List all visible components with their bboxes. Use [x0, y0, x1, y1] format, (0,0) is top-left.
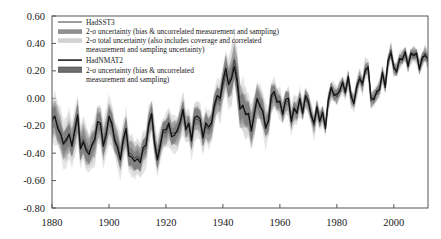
legend-item: measurement and sampling uncertainty): [86, 45, 205, 54]
y-tick-label: 0.40: [27, 38, 45, 49]
x-axis-tickmarks: [52, 204, 394, 208]
legend-label: 2-σ uncertainty (bias & uncorrelated: [86, 66, 194, 75]
legend-label: HadNMAT2: [86, 56, 123, 65]
x-tick-label: 2000: [383, 217, 404, 228]
x-axis-tick-labels: 1880190019201940196019802000: [42, 217, 405, 228]
legend-item: HadNMAT2: [58, 56, 123, 65]
legend-swatch-dark: [58, 29, 82, 34]
y-tick-label: -0.80: [23, 203, 45, 214]
x-tick-label: 1900: [98, 217, 119, 228]
y-axis-tick-labels: 0.600.400.200.00-0.20-0.40-0.60-0.80: [23, 11, 45, 214]
x-tick-label: 1960: [269, 217, 290, 228]
y-tick-label: 0.00: [27, 93, 45, 104]
y-tick-label: 0.60: [27, 11, 45, 22]
legend-swatch-mid: [58, 67, 82, 72]
y-tick-label: -0.40: [23, 148, 45, 159]
chart-legend: HadSST32-σ uncertainty (bias & uncorrela…: [58, 18, 280, 84]
chart-figure: 0.600.400.200.00-0.20-0.40-0.60-0.80 188…: [0, 0, 441, 239]
legend-label: 2-σ total uncertainty (also includes cov…: [86, 36, 262, 45]
legend-label: 2-σ uncertainty (bias & uncorrelated mea…: [86, 27, 280, 36]
legend-label: measurement and sampling uncertainty): [86, 45, 205, 54]
legend-item: 2-σ uncertainty (bias & uncorrelated: [58, 66, 194, 75]
x-tick-label: 1980: [326, 217, 347, 228]
legend-item: measurement and sampling): [86, 75, 170, 84]
series-layer: [52, 33, 428, 181]
time-series-chart: 0.600.400.200.00-0.20-0.40-0.60-0.80 188…: [0, 0, 441, 239]
y-tick-label: -0.20: [23, 120, 45, 131]
y-tick-label: -0.60: [23, 175, 45, 186]
legend-item: HadSST3: [58, 18, 115, 27]
x-tick-label: 1880: [42, 217, 63, 228]
legend-item: 2-σ uncertainty (bias & uncorrelated mea…: [58, 27, 280, 36]
x-tick-label: 1940: [212, 217, 233, 228]
legend-swatch-light: [58, 38, 82, 43]
legend-item: 2-σ total uncertainty (also includes cov…: [58, 36, 262, 45]
legend-label: HadSST3: [86, 18, 115, 27]
x-tick-label: 1920: [155, 217, 176, 228]
legend-label: measurement and sampling): [86, 75, 170, 84]
y-tick-label: 0.20: [27, 65, 45, 76]
